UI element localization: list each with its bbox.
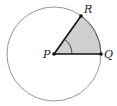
- point-q: [99, 52, 103, 56]
- label-r: R: [83, 3, 92, 16]
- label-q: Q: [104, 48, 113, 61]
- point-r: [79, 14, 83, 18]
- circle-sector-diagram: P Q R: [0, 0, 117, 106]
- point-p: [52, 52, 56, 56]
- label-p: P: [42, 48, 51, 61]
